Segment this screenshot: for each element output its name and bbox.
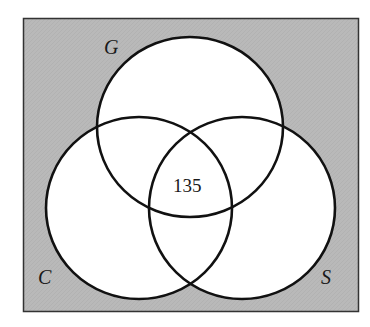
set-g-label: G xyxy=(104,37,118,57)
triple-intersection-value: 135 xyxy=(173,176,202,195)
venn-canvas xyxy=(0,0,370,327)
venn-diagram: G C S 135 xyxy=(0,0,370,327)
set-s-label: S xyxy=(321,267,331,287)
set-c-label: C xyxy=(38,267,51,287)
